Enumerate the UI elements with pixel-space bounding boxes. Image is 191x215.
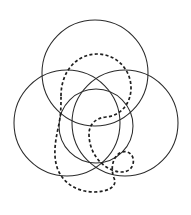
curve-diagram-canvas [0,0,191,215]
canvas-background [0,0,191,215]
